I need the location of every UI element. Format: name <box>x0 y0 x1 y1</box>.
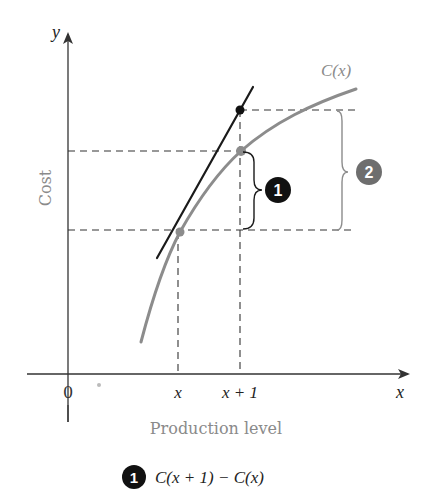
legend: 1 C(x + 1) − C(x) <box>122 465 264 489</box>
curve-point-x-plus-1 <box>236 146 246 156</box>
badge-1: 1 <box>265 177 291 203</box>
y-axis-label: y <box>50 22 60 42</box>
tick-x: x <box>173 383 182 402</box>
brace-1 <box>243 152 262 229</box>
x-axis-label: x <box>395 382 404 402</box>
legend-text: C(x + 1) − C(x) <box>155 468 264 487</box>
svg-text:2: 2 <box>365 164 374 181</box>
stray-dot <box>97 383 101 387</box>
marginal-cost-diagram: 1 2 y x C(x) 0 x x + 1 Cost Production l… <box>0 0 427 489</box>
curve-point-x <box>176 228 185 237</box>
svg-text:1: 1 <box>130 469 138 486</box>
production-axis-title: Production level <box>150 419 282 438</box>
dashed-guides <box>68 110 355 374</box>
origin-label: 0 <box>63 383 73 402</box>
cost-curve <box>141 89 356 342</box>
cost-axis-title: Cost <box>36 169 55 206</box>
badge-2: 2 <box>356 159 382 185</box>
brace-2 <box>337 111 348 230</box>
tick-x-plus-1: x + 1 <box>221 383 258 402</box>
tangent-point-x-plus-1 <box>236 106 245 115</box>
curve-label: C(x) <box>321 61 352 80</box>
svg-text:1: 1 <box>274 182 283 199</box>
